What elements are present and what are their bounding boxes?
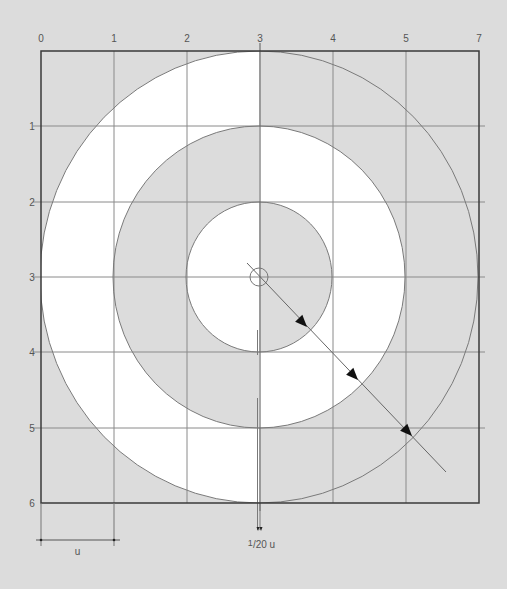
unit-label: u — [75, 546, 81, 557]
y-axis-label: 2 — [29, 197, 35, 208]
gap-label: 1/20 u — [248, 538, 275, 550]
x-axis-label: 0 — [38, 33, 44, 44]
y-axis-label: 6 — [29, 498, 35, 509]
unit-tick-dot-right — [113, 539, 116, 542]
gap-label-rest: /20 u — [253, 539, 275, 550]
x-axis-label: 5 — [403, 33, 409, 44]
unit-tick-dot-left — [40, 539, 43, 542]
y-axis-label: 5 — [29, 423, 35, 434]
concentric-circle-diagram: 0123457 123456 u 1/20 u — [0, 0, 507, 589]
x-axis-label: 4 — [330, 33, 336, 44]
x-axis-label: 3 — [257, 33, 263, 44]
y-axis-label: 4 — [29, 347, 35, 358]
y-axis-label: 1 — [29, 121, 35, 132]
x-axis-label: 2 — [184, 33, 190, 44]
x-axis-label: 1 — [111, 33, 117, 44]
x-axis-label: 7 — [476, 33, 482, 44]
y-axis-label: 3 — [29, 272, 35, 283]
